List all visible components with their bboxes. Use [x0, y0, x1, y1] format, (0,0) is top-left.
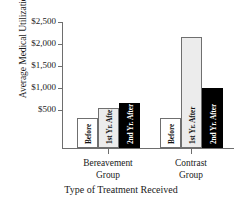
y-axis-line — [62, 22, 63, 148]
x-category-line-1: Contrast — [136, 158, 242, 170]
bar-contrast-2nd-yr-after: 2nd Yr. After — [202, 88, 223, 148]
y-tick-label: $1,500 — [31, 60, 56, 70]
bar-label: Before — [166, 124, 175, 144]
y-tick-mark — [58, 44, 62, 45]
bar-label: Before — [83, 124, 92, 144]
bar-bereavement-before: Before — [77, 118, 98, 148]
y-tick-label: $2,500 — [31, 16, 56, 26]
x-axis-line — [62, 148, 234, 149]
x-category-line-2: Group — [136, 170, 242, 182]
bar-bereavement-1st-yr-after: 1st Yr. After — [98, 108, 119, 148]
bar-label: 2nd Yr. After — [125, 104, 134, 144]
y-tick-mark — [58, 88, 62, 89]
y-tick-label: $1,000 — [31, 82, 56, 92]
y-tick-label: $500 — [38, 104, 56, 114]
y-tick-mark — [58, 22, 62, 23]
bar-contrast-1st-yr-after: 1st Yr. After — [181, 37, 202, 148]
x-tick-contrast — [191, 149, 192, 154]
bar-label: 1st Yr. After — [104, 108, 113, 144]
chart-figure: Average Medical Utilization $2,500 $2,00… — [0, 0, 242, 210]
y-tick-label: $2,000 — [31, 38, 56, 48]
x-axis-title: Type of Treatment Received — [0, 184, 242, 195]
y-axis-title: Average Medical Utilization — [17, 0, 31, 111]
bar-contrast-before: Before — [160, 118, 181, 148]
y-tick-mark — [58, 66, 62, 67]
bar-label: 2nd Yr. After — [208, 104, 217, 144]
plot-area: $2,500 $2,000 $1,500 $1,000 $500 Before … — [62, 22, 234, 148]
bar-bereavement-2nd-yr-after: 2nd Yr. After — [119, 103, 140, 148]
bar-label: 1st Yr. After — [187, 107, 196, 144]
x-tick-bereavement — [108, 149, 109, 154]
y-tick-mark — [58, 110, 62, 111]
x-category-label-contrast: Contrast Group — [136, 158, 242, 181]
